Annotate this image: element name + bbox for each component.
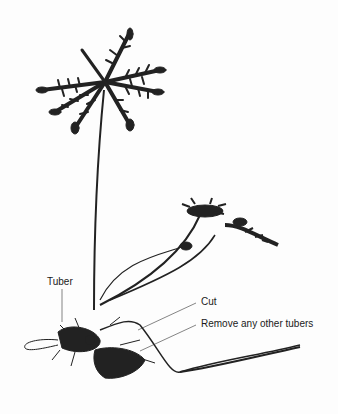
plant-illustration <box>0 0 338 414</box>
cut-leader-line <box>138 303 196 330</box>
tuber-mass <box>58 327 145 378</box>
plant-photo: Tuber Cut Remove any other tubers <box>0 0 338 414</box>
remove-tubers-label: Remove any other tubers <box>201 318 313 330</box>
flower-head <box>182 198 226 217</box>
side-leaf <box>225 218 278 245</box>
tuber-label: Tuber <box>47 276 73 288</box>
remove-leader-line <box>140 325 196 351</box>
cut-label: Cut <box>201 296 217 308</box>
